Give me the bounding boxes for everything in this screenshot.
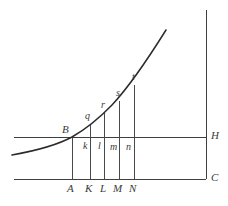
label-point-t: t	[132, 72, 135, 82]
label-point-b: B	[62, 124, 69, 135]
geometric-figure: B q r s t k l m n A K L M N H C	[0, 0, 228, 206]
label-point-a: A	[67, 183, 74, 194]
label-point-k: k	[83, 141, 87, 151]
label-point-q: q	[85, 111, 90, 121]
exponential-curve	[12, 30, 166, 155]
label-point-k-base: K	[85, 183, 92, 194]
label-point-s: s	[116, 88, 120, 98]
label-point-m-base: M	[113, 183, 122, 194]
figure-canvas	[0, 0, 228, 206]
label-point-l-base: L	[100, 183, 106, 194]
label-axis-h: H	[211, 130, 219, 141]
label-point-m: m	[110, 142, 117, 152]
label-point-r: r	[101, 100, 105, 110]
label-point-l: l	[98, 141, 101, 151]
label-point-n-base: N	[129, 183, 136, 194]
label-point-n: n	[126, 142, 131, 152]
label-axis-c: C	[211, 172, 218, 183]
